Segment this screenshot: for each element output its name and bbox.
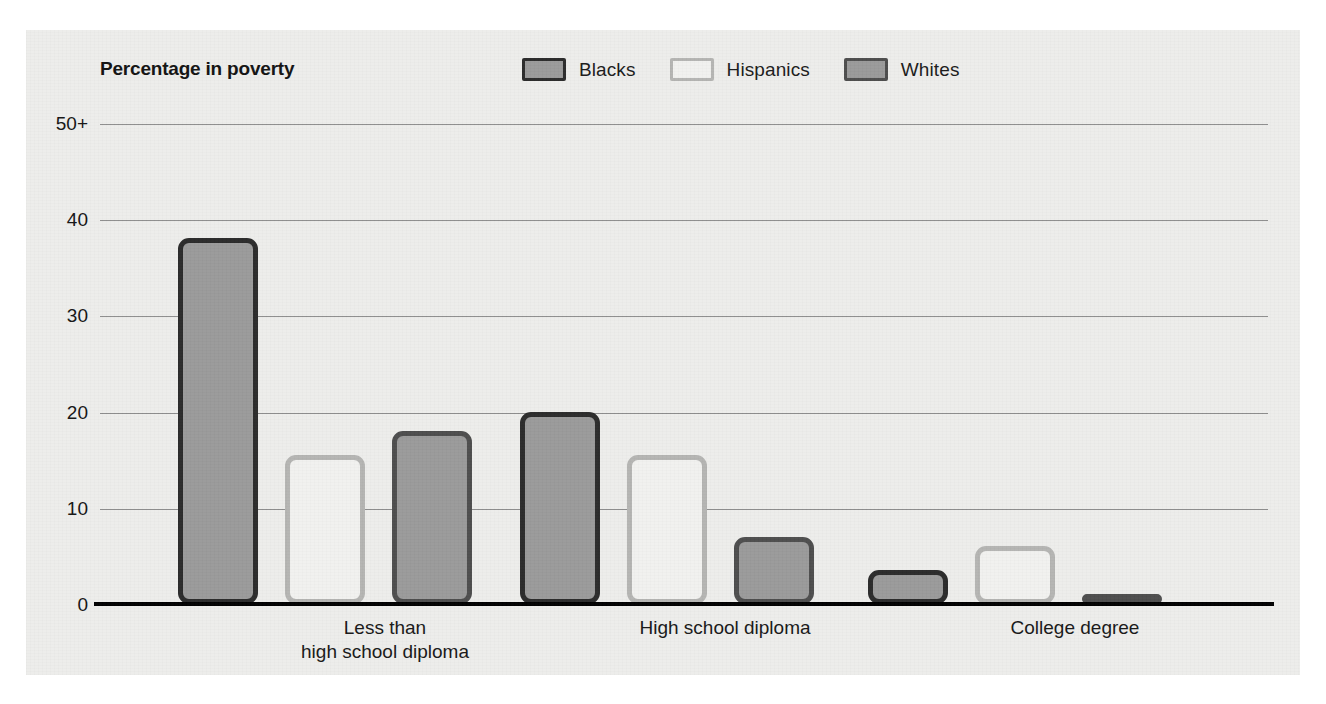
y-axis-label-0: 0 <box>77 594 88 616</box>
legend-swatch-blacks <box>522 58 566 81</box>
gridline-30: 30 <box>100 316 1268 317</box>
bar-hispanics-group-1[interactable] <box>285 455 365 604</box>
category-label-3: College degree <box>1011 616 1140 640</box>
legend-item-blacks[interactable]: Blacks <box>522 58 636 81</box>
bar-blacks-group-2[interactable] <box>520 412 600 604</box>
category-label-2: High school diploma <box>639 616 810 640</box>
legend-swatch-whites <box>844 58 888 81</box>
chart-figure: Percentage in poverty Blacks Hispanics W… <box>26 30 1300 675</box>
bar-blacks-group-1[interactable] <box>178 238 258 604</box>
chart-title: Percentage in poverty <box>100 58 294 80</box>
gridline-50: 50+ <box>100 124 1268 125</box>
y-axis-label-40: 40 <box>67 209 88 231</box>
legend-label-hispanics: Hispanics <box>727 59 810 81</box>
y-axis-label-10: 10 <box>67 498 88 520</box>
legend-item-hispanics[interactable]: Hispanics <box>670 58 810 81</box>
x-axis-baseline <box>94 602 1274 606</box>
bar-whites-group-2[interactable] <box>734 537 814 604</box>
legend-label-whites: Whites <box>901 59 960 81</box>
plot-area: 01020304050+ Less than high school diplo… <box>100 125 1268 606</box>
y-axis-label-30: 30 <box>67 305 88 327</box>
gridline-40: 40 <box>100 220 1268 221</box>
chart-legend: Blacks Hispanics Whites <box>522 58 960 81</box>
legend-item-whites[interactable]: Whites <box>844 58 960 81</box>
category-label-1: Less than high school diploma <box>301 616 469 664</box>
gridline-20: 20 <box>100 413 1268 414</box>
y-axis-label-20: 20 <box>67 402 88 424</box>
y-axis-label-50+: 50+ <box>56 113 88 135</box>
bar-hispanics-group-3[interactable] <box>975 546 1055 604</box>
bar-blacks-group-3[interactable] <box>868 570 948 604</box>
bar-hispanics-group-2[interactable] <box>627 455 707 604</box>
bar-whites-group-1[interactable] <box>392 431 472 604</box>
legend-swatch-hispanics <box>670 58 714 81</box>
legend-label-blacks: Blacks <box>579 59 636 81</box>
